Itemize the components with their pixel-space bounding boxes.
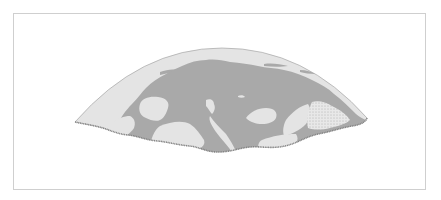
map-canvas bbox=[0, 0, 441, 200]
